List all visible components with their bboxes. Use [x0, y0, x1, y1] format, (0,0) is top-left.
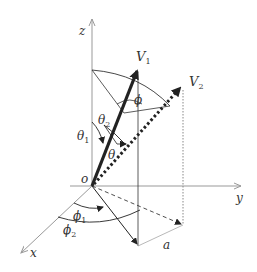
- v1-label: V1: [136, 49, 150, 66]
- theta-label: θ: [108, 148, 116, 162]
- v1-ground-projection: [92, 186, 137, 244]
- phi2-arc: [58, 210, 140, 222]
- axes: [21, 19, 241, 253]
- vector-v1: [92, 71, 137, 186]
- phi-label: ϕ: [134, 93, 142, 107]
- theta2-label: θ2: [98, 113, 110, 129]
- diagram-canvas: z y x o V1 V2 ϕ θ2 θ1 θ ϕ1 ϕ2 a: [0, 0, 257, 272]
- z-axis-label: z: [78, 24, 86, 38]
- origin-label: o: [81, 172, 88, 186]
- v2-label: V2: [189, 74, 203, 91]
- x-axis-label: x: [30, 246, 37, 260]
- distance-a-segment: [138, 225, 183, 246]
- phi1-label: ϕ1: [73, 209, 86, 225]
- v2-ground-projection: [92, 186, 181, 224]
- cone-line-right: [124, 106, 170, 113]
- phi1-arc: [74, 203, 103, 208]
- theta1-label: θ1: [77, 129, 89, 145]
- vector-diagram: z y x o V1 V2 ϕ θ2 θ1 θ ϕ1 ϕ2 a: [0, 0, 257, 272]
- distance-a-label: a: [163, 238, 170, 252]
- y-axis-label: y: [235, 191, 243, 205]
- cone-line-left: [92, 70, 124, 113]
- phi2-label: ϕ2: [63, 223, 76, 239]
